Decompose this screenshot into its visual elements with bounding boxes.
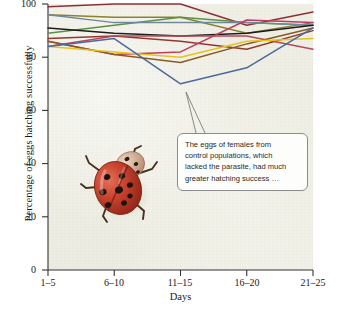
data-series-group (48, 4, 313, 84)
annotation-callout-line-1: The eggs of females from (185, 139, 301, 150)
x-tick-label-1-5: 1–5 (20, 277, 76, 288)
annotation-callout: The eggs of females from control populat… (177, 133, 308, 191)
x-tick-label-6-10: 6–10 (86, 277, 142, 288)
x-axis-title: Days (48, 291, 313, 302)
y-axis-title: Percentage of eggs hatching successfully (23, 9, 34, 259)
annotation-callout-line-2: control populations, which (185, 150, 301, 161)
callout-leader-line (186, 92, 205, 133)
chart-figure: 100 80 60 40 20 0 1–5 6–10 11–15 16–20 2… (0, 0, 338, 313)
x-tick-label-16-20: 16–20 (219, 277, 275, 288)
series-line-black (48, 25, 313, 36)
annotation-callout-line-3: lacked the parasite, had much (185, 161, 301, 172)
x-tick-label-11-15: 11–15 (152, 277, 208, 288)
x-axis-ticks (48, 270, 313, 276)
annotation-callout-line-4: greater hatching success … (185, 173, 301, 184)
y-tick-label-0: 0 (8, 264, 36, 275)
x-tick-label-21-25: 21–25 (285, 277, 338, 288)
y-axis-ticks (42, 4, 48, 270)
